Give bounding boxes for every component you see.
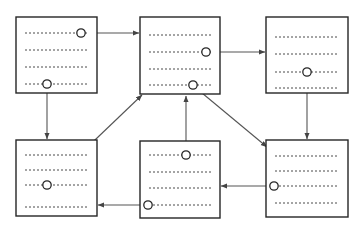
link-node-box2-line4[interactable] <box>189 81 197 89</box>
link-node-box3-line3[interactable] <box>303 68 311 76</box>
document-box-bottom-right[interactable] <box>266 140 348 217</box>
arrow-box2-to-box6 <box>196 88 267 147</box>
document-box-bottom-left-frame <box>16 140 97 216</box>
link-node-box5-line4[interactable] <box>144 201 152 209</box>
link-node-box1-line4[interactable] <box>43 80 51 88</box>
document-box-top-left[interactable] <box>16 17 97 93</box>
document-box-top-right-frame <box>266 17 348 93</box>
link-node-box5-line1[interactable] <box>182 151 190 159</box>
link-node-box2-line2[interactable] <box>202 48 210 56</box>
link-node-box6-line3[interactable] <box>270 182 278 190</box>
link-node-box4-line3[interactable] <box>43 181 51 189</box>
document-box-top-left-frame <box>16 17 97 93</box>
link-node-box1-line1[interactable] <box>77 29 85 37</box>
document-box-bottom-right-frame <box>266 140 348 217</box>
document-box-top-right[interactable] <box>266 17 348 93</box>
box-layer <box>16 17 348 218</box>
node-link-diagram <box>0 0 361 234</box>
diagram-canvas <box>0 0 361 234</box>
document-box-bottom-left[interactable] <box>16 140 97 216</box>
